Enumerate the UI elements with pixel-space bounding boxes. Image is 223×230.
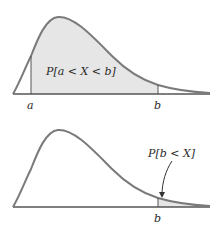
tick-label-a: a <box>27 99 34 112</box>
arrowhead-icon <box>159 192 165 198</box>
tick-label-b: b <box>154 212 161 225</box>
density-curve <box>13 130 210 207</box>
probability-diagram: P[a < X < b] a b P[b < X] b <box>0 0 223 230</box>
tick-label-b: b <box>154 99 161 112</box>
interval-probability-label: P[a < X < b] <box>45 65 117 78</box>
shaded-area-a-to-b <box>31 17 158 94</box>
bottom-panel: P[b < X] b <box>13 130 210 225</box>
pointer-arrow <box>162 161 172 195</box>
tail-probability-label: P[b < X] <box>147 147 196 160</box>
top-panel: P[a < X < b] a b <box>13 17 210 112</box>
